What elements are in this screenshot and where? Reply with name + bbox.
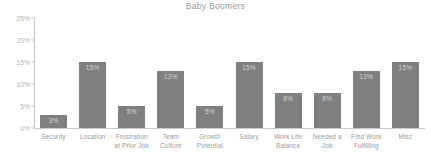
bar[interactable]: 13% [353,71,380,128]
bar-value-label: 13% [359,73,373,80]
bar[interactable]: 8% [275,93,302,128]
bar[interactable]: 8% [314,93,341,128]
bar-slot: 15% [386,18,425,128]
x-axis-category-label-line: Balance [269,142,308,151]
bar-value-label: 5% [127,108,137,115]
bar-series: 3%15%5%13%5%15%8%8%13%15% [34,18,425,128]
bar[interactable]: 15% [79,62,106,128]
bar-slot: 15% [229,18,268,128]
bar-slot: 3% [34,18,73,128]
bar-chart: Baby Boomers 25%20%15%10%5%0% 3%15%5%13%… [0,0,431,168]
x-axis-line [34,128,425,129]
y-axis-tick-label: 25% [16,15,30,22]
bar[interactable]: 15% [392,62,419,128]
bar-value-label: 5% [205,108,215,115]
x-axis-category-label-line: at Prior Job [112,142,151,151]
x-axis-category-label-line: Salary [229,133,268,142]
bar-slot: 5% [112,18,151,128]
bar-value-label: 15% [86,64,100,71]
bar[interactable]: 13% [157,71,184,128]
x-axis-category-label-line: Find Work [347,133,386,142]
bar-slot: 15% [73,18,112,128]
x-axis-category-label-line: Work Life [269,133,308,142]
bar-value-label: 15% [399,64,413,71]
x-axis-category-label-line: Location [73,133,112,142]
x-axis-category-label-line: Culture [151,142,190,151]
x-axis-category-label-line: Frustration [112,133,151,142]
x-axis-category-label: Needed aJob [308,131,347,165]
x-axis-category-label: GrowthPotential [190,131,229,165]
bar[interactable]: 5% [196,106,223,128]
y-axis-tick-label: 15% [16,59,30,66]
x-axis-category-label-line: Fulfilling [347,142,386,151]
bar-value-label: 8% [283,95,293,102]
bar-value-label: 8% [322,95,332,102]
y-axis-tick-label: 0% [20,125,30,132]
x-axis-category-label: Security [34,131,73,165]
bar-slot: 13% [151,18,190,128]
x-axis-category-label: Work LifeBalance [269,131,308,165]
chart-title: Baby Boomers [0,1,431,11]
bar-value-label: 3% [49,117,59,124]
bar-value-label: 13% [164,73,178,80]
plot-area: 25%20%15%10%5%0% 3%15%5%13%5%15%8%8%13%1… [34,18,425,128]
bar[interactable]: 5% [118,106,145,128]
x-axis-category-label: Frustrationat Prior Job [112,131,151,165]
x-axis-category-label-line: Potential [190,142,229,151]
y-axis-tick-label: 5% [20,103,30,110]
x-axis-category-label-line: Security [34,133,73,142]
x-axis-category-label-line: Job [308,142,347,151]
y-axis-tick-label: 20% [16,37,30,44]
x-axis-labels: SecurityLocationFrustrationat Prior JobT… [34,131,425,165]
bar-slot: 5% [190,18,229,128]
x-axis-category-label-line: Needed a [308,133,347,142]
x-axis-category-label-line: Misc [386,133,425,142]
x-axis-category-label: Salary [229,131,268,165]
bar-slot: 8% [308,18,347,128]
bar-slot: 13% [347,18,386,128]
x-axis-category-label: Misc [386,131,425,165]
bar-slot: 8% [269,18,308,128]
bar[interactable]: 15% [236,62,263,128]
y-axis-tick-label: 10% [16,81,30,88]
x-axis-category-label-line: Growth [190,133,229,142]
bar-value-label: 15% [242,64,256,71]
x-axis-category-label: Find WorkFulfilling [347,131,386,165]
bar[interactable]: 3% [40,115,67,128]
x-axis-category-label-line: Team [151,133,190,142]
x-axis-category-label: TeamCulture [151,131,190,165]
x-axis-category-label: Location [73,131,112,165]
